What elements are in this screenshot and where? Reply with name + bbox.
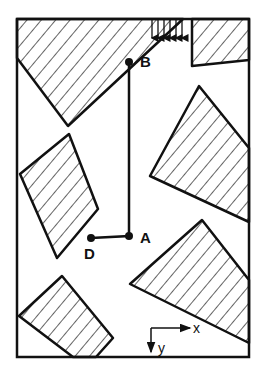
bottom-left-block: [19, 276, 113, 357]
axes-indicator: [151, 328, 190, 352]
y-axis-label: y: [158, 340, 165, 356]
x-axis-label: x: [193, 320, 200, 336]
right-middle-block: [150, 86, 249, 222]
point-d-marker: [87, 234, 95, 242]
point-a-marker: [125, 232, 133, 240]
point-a-label: A: [140, 229, 151, 246]
point-b-label: B: [140, 53, 151, 70]
left-middle-block: [20, 134, 98, 258]
point-b-marker: [125, 58, 133, 66]
diagram-canvas: B A D x y: [0, 0, 266, 379]
point-d-label: D: [84, 245, 95, 262]
top-right-block: [192, 19, 249, 66]
